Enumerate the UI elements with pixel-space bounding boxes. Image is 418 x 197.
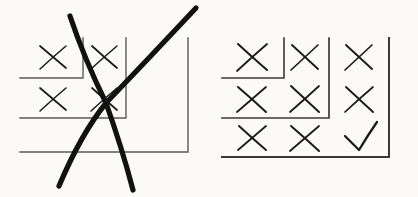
canvas-background [0, 0, 418, 197]
figure-root: rejected accepted [0, 0, 418, 197]
diagram-canvas [0, 0, 418, 197]
